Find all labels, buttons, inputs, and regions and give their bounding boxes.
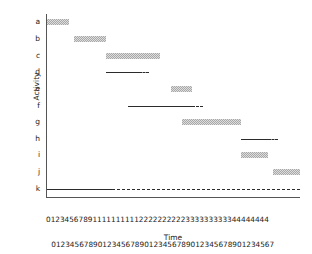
gantt-float-d	[139, 72, 150, 73]
y-tick-label-b: b	[0, 35, 40, 43]
gantt-bar-c	[106, 53, 160, 59]
gantt-line-h	[241, 139, 268, 140]
gantt-chart: Activity abcdefghijk 0123456789111111111…	[0, 0, 312, 254]
y-tick-label-f: f	[0, 102, 40, 110]
y-tick-label-j: j	[0, 168, 40, 176]
x-tick-row-tens: 0123456789111111111122222222223333333333…	[46, 216, 302, 224]
y-tick-label-c: c	[0, 52, 40, 60]
y-tick-label-g: g	[0, 118, 40, 126]
gantt-line-d	[106, 72, 138, 73]
y-tick-label-e: e	[0, 85, 40, 93]
x-axis-line	[46, 197, 300, 198]
gantt-bar-i	[241, 152, 268, 158]
gantt-line-k	[47, 189, 112, 190]
gantt-bar-e	[171, 86, 193, 92]
gantt-float-k	[112, 189, 300, 190]
gantt-line-f	[128, 106, 193, 107]
y-tick-label-d: d	[0, 68, 40, 76]
gantt-bar-a	[47, 19, 69, 25]
x-axis-title: Time	[46, 233, 300, 242]
plot-area	[47, 14, 300, 197]
y-tick-label-k: k	[0, 185, 40, 193]
y-tick-label-i: i	[0, 151, 40, 159]
y-tick-label-h: h	[0, 135, 40, 143]
gantt-bar-j	[273, 169, 300, 175]
gantt-float-f	[192, 106, 203, 107]
x-tick-labels: 0123456789111111111122222222223333333333…	[46, 199, 302, 254]
y-tick-label-a: a	[0, 18, 40, 26]
x-tick-row-ones: 0123456789012345678901234567890123456789…	[51, 241, 302, 249]
gantt-bar-b	[74, 36, 106, 42]
gantt-bar-g	[182, 119, 241, 125]
gantt-float-h	[268, 139, 279, 140]
